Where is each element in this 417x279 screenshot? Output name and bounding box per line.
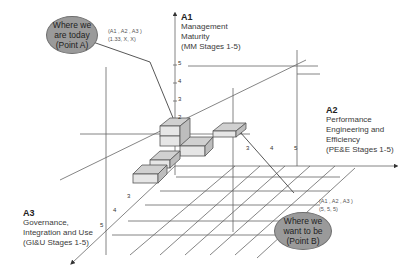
point-b-coords: (A1 , A2 , A3 ) (5, 5, 5) [319,197,353,213]
a1-tick-2: 2 [178,114,181,120]
point-a-coord-value: (1.33, X, X) [108,35,142,43]
a2-line-3: Efficiency [326,135,394,145]
a2-line-2: Engineering and [326,125,394,135]
a3-line-1: Governance, [23,218,93,228]
a2-axis-label: A2 Performance Engineering and Efficienc… [326,105,394,155]
a2-line-1: Performance [326,115,394,125]
point-a-bubble: Where we are today (Point A) [46,16,98,54]
a1-axis-name: A1 [181,12,241,22]
point-b-bubble: Where we want to be (Point B) [274,212,332,250]
a1-tick-5: 5 [178,60,181,66]
a1-line-1: Management [181,22,241,32]
a1-axis-label: A1 Management Maturity (MM Stages 1-5) [181,12,241,52]
a2-tick-5: 5 [294,145,297,151]
a1-tick-3: 3 [178,96,181,102]
a3-tick-3: 3 [127,193,130,199]
a1-tick-4: 4 [178,78,181,84]
point-a-coord-label: (A1 , A2 , A3 ) [108,27,142,35]
a3-line-3: (GI&U Stages 1-5) [23,238,93,248]
a3-tick-5: 5 [100,222,103,228]
point-b-coord-value: (5, 5, 5) [319,205,353,213]
a1-line-3: (MM Stages 1-5) [181,42,241,52]
a1-line-2: Maturity [181,32,241,42]
point-a-line-3: (Point A) [56,40,89,50]
a3-axis-label: A3 Governance, Integration and Use (GI&U… [23,208,93,248]
point-b-line-1: Where we [284,216,322,226]
a2-tick-3: 3 [246,145,249,151]
point-a-coords: (A1 , A2 , A3 ) (1.33, X, X) [108,27,142,43]
point-b-line-3: (Point B) [286,236,319,246]
point-b-line-2: want to be [283,226,322,236]
a3-line-2: Integration and Use [23,228,93,238]
point-a-line-1: Where we [53,20,91,30]
a3-tick-4: 4 [113,207,116,213]
a2-axis-name: A2 [326,105,394,115]
point-a-line-2: are today [54,30,89,40]
maturity-blocks [133,118,246,183]
a2-line-4: (PE&E Stages 1-5) [326,145,394,155]
a3-axis-name: A3 [23,208,93,218]
point-b-coord-label: (A1 , A2 , A3 ) [319,197,353,205]
a2-tick-4: 4 [270,145,273,151]
